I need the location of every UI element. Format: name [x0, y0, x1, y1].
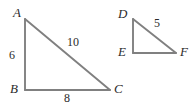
side-length-bc: 8	[64, 92, 70, 104]
vertex-label-e: E	[118, 45, 126, 58]
triangle-abc-shape	[25, 19, 110, 90]
vertex-label-d: D	[118, 7, 127, 20]
vertex-label-b: B	[10, 82, 18, 95]
side-length-df: 5	[154, 17, 160, 29]
vertex-label-f: F	[180, 45, 188, 58]
triangles-diagram	[0, 0, 196, 110]
side-length-ac: 10	[67, 36, 79, 48]
segment-ac	[25, 19, 110, 90]
vertex-label-c: C	[114, 82, 123, 95]
geometry-figure: A B C 6 10 8 D E F 5	[0, 0, 196, 110]
vertex-label-a: A	[13, 6, 21, 19]
side-length-ab: 6	[9, 49, 15, 61]
